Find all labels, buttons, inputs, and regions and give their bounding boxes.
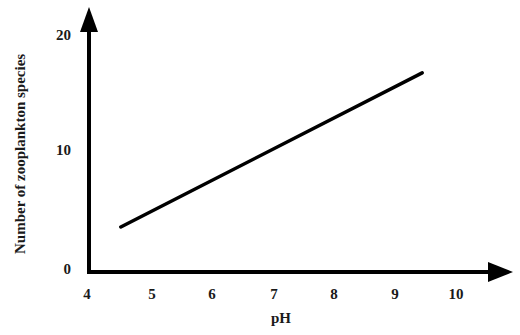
data-series-line — [121, 73, 422, 227]
x-tick-label-8: 8 — [330, 287, 338, 302]
plot-area — [0, 0, 520, 335]
x-tick-label-4: 4 — [83, 287, 91, 302]
chart-figure: 20 10 0 4 5 6 7 8 9 10 pH Number of zoop… — [0, 0, 520, 335]
y-axis-title: Number of zooplankton species — [13, 54, 28, 254]
y-tick-label-0: 0 — [31, 262, 71, 277]
x-axis-title: pH — [271, 311, 291, 326]
x-tick-label-9: 9 — [391, 287, 399, 302]
y-tick-label-10: 10 — [31, 143, 71, 158]
y-axis-arrowhead — [80, 7, 98, 32]
y-tick-label-20: 20 — [31, 28, 71, 43]
x-tick-label-5: 5 — [148, 287, 156, 302]
x-tick-label-7: 7 — [270, 287, 278, 302]
x-tick-label-10: 10 — [449, 287, 464, 302]
x-axis-arrowhead — [488, 262, 513, 282]
x-tick-label-6: 6 — [208, 287, 216, 302]
